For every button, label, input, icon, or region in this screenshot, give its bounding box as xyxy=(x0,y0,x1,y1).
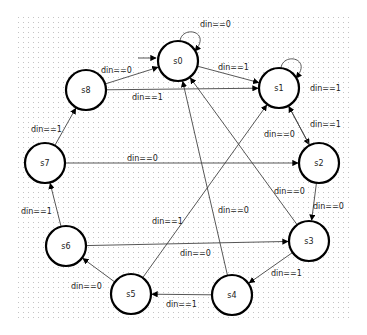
state-label: s2 xyxy=(314,159,323,168)
state-node-s7[interactable]: s7 xyxy=(25,143,65,183)
transition-label: din==0 xyxy=(200,20,231,29)
state-node-s0[interactable]: s0 xyxy=(158,41,198,81)
state-node-s2[interactable]: s2 xyxy=(299,143,339,183)
transition-label: din==1 xyxy=(132,93,163,102)
state-label: s4 xyxy=(227,291,236,300)
state-node-s6[interactable]: s6 xyxy=(46,226,86,266)
state-label: s8 xyxy=(81,86,90,95)
transition-label: din==0 xyxy=(180,249,211,258)
transition-label: din==1 xyxy=(310,120,341,129)
state-label: s1 xyxy=(274,84,283,93)
transition-label: din==1 xyxy=(166,300,197,309)
state-diagram-canvas: din==0din==1din==1din==0din==1din==0din=… xyxy=(0,0,367,335)
transition-s4-to-s5 xyxy=(152,294,212,295)
state-label: s7 xyxy=(40,159,49,168)
transition-label: din==0 xyxy=(218,206,249,215)
state-label: s5 xyxy=(126,290,135,299)
transition-label: din==1 xyxy=(152,217,183,226)
transition-label: din==0 xyxy=(127,154,158,163)
transition-label: din==0 xyxy=(71,282,102,291)
transition-label: din==1 xyxy=(271,269,302,278)
transition-label: din==1 xyxy=(310,84,341,93)
transition-label: din==1 xyxy=(21,207,52,216)
state-node-s8[interactable]: s8 xyxy=(66,70,106,110)
transition-label: din==1 xyxy=(218,63,249,72)
transition-label: din==0 xyxy=(264,130,295,139)
state-node-s4[interactable]: s4 xyxy=(212,275,252,315)
state-label: s0 xyxy=(173,57,182,66)
state-label: s6 xyxy=(61,242,70,251)
state-node-s5[interactable]: s5 xyxy=(111,274,151,314)
transition-label: din==1 xyxy=(31,125,62,134)
transition-label: din==0 xyxy=(313,202,344,211)
state-label: s3 xyxy=(304,237,313,246)
state-node-s1[interactable]: s1 xyxy=(259,68,299,108)
state-node-s3[interactable]: s3 xyxy=(289,221,329,261)
transition-label: din==0 xyxy=(101,66,132,75)
transition-label: din==0 xyxy=(274,187,305,196)
